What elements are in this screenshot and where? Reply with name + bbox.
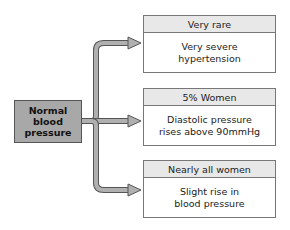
outcome-header-nearly-all-women: Nearly all women [144,161,275,178]
outcome-body-very-rare: Very severe hypertension [144,33,275,72]
arrow-to-very-rare [82,37,141,121]
outcome-box-very-rare: Very rare Very severe hypertension [143,15,276,73]
outcome-body-nearly-all-women: Slight rise in blood pressure [144,178,275,217]
outcome-box-nearly-all-women: Nearly all women Slight rise in blood pr… [143,160,276,218]
outcome-body-5-percent-women: Diastolic pressure rises above 90mmHg [144,106,275,145]
arrow-to-nearly-all [82,121,141,196]
outcome-header-5-percent-women: 5% Women [144,89,275,106]
blood-pressure-flow-diagram: Normal blood pressure Very rare Very sev… [0,0,290,230]
outcome-header-very-rare: Very rare [144,16,275,33]
normal-blood-pressure-box: Normal blood pressure [14,100,82,143]
outcome-box-5-percent-women: 5% Women Diastolic pressure rises above … [143,88,276,146]
